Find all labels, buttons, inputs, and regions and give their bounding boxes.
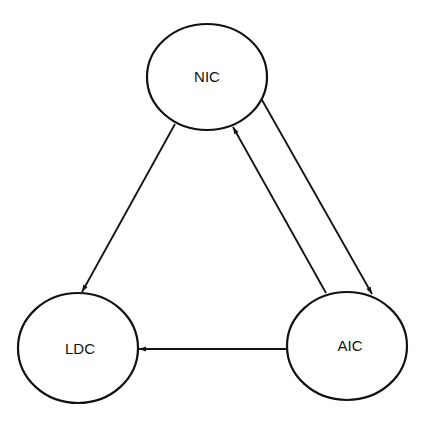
diagram-canvas: NIC LDC AIC xyxy=(0,0,432,425)
node-aic: AIC xyxy=(287,292,407,400)
edge-nic-to-aic xyxy=(262,100,372,294)
node-nic-label: NIC xyxy=(194,68,220,85)
node-ldc: LDC xyxy=(18,293,138,403)
edge-aic-to-nic xyxy=(233,127,326,293)
node-ldc-label: LDC xyxy=(65,340,95,357)
node-aic-label: AIC xyxy=(337,337,362,354)
node-nic: NIC xyxy=(147,24,267,130)
edge-nic-to-ldc xyxy=(82,124,175,292)
